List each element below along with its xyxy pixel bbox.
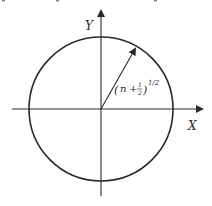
radius-vector-arrow <box>101 49 135 109</box>
radius-label-frac-den: 2 <box>137 89 142 96</box>
phase-space-diagram: Y X ( n + 1 2 ) 1/2 <box>0 0 212 206</box>
radius-label-close-paren: ) <box>142 84 147 97</box>
x-axis-label: X <box>187 119 197 133</box>
y-axis-label: Y <box>85 19 94 33</box>
radius-label-plus: + <box>129 83 137 94</box>
radius-label-n: n <box>120 83 126 94</box>
clipped-text-fragments <box>2 0 157 2</box>
radius-label: ( n + 1 2 ) 1/2 <box>114 79 160 97</box>
radius-label-exponent: 1/2 <box>148 79 160 87</box>
radius-label-frac-num: 1 <box>138 81 142 88</box>
radius-label-open-paren: ( <box>114 84 119 97</box>
